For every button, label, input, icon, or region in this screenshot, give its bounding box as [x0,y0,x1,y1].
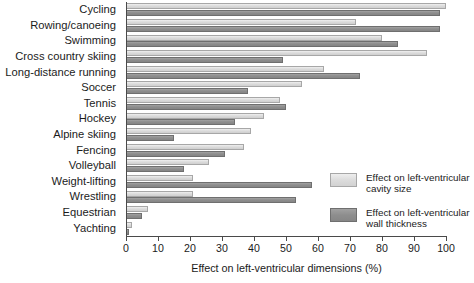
bar-row [126,33,446,49]
x-axis-tick-labels: 0102030405060708090100 [0,242,474,256]
bar-wall-thickness [126,213,142,219]
x-axis-tick-label: 30 [216,242,228,254]
x-axis-tick [254,237,255,241]
bar-wall-thickness [126,26,440,32]
legend-label-line1: Effect on left-ventricular [366,207,470,218]
legend-label-line2: wall thickness [366,218,470,229]
bar-row [126,80,446,96]
x-axis-tick [222,237,223,241]
bar-cavity-size [126,3,446,9]
bar-cavity-size [126,206,148,212]
bar-cavity-size [126,191,193,197]
category-label: Long-distance running [0,64,120,80]
bar-cavity-size [126,144,244,150]
category-label: Volleyball [0,158,120,174]
category-label: Hockey [0,111,120,127]
legend-label-line1: Effect on left-ventricular [366,172,470,183]
x-axis-tick [318,237,319,241]
x-axis-tick-label: 60 [312,242,324,254]
bar-wall-thickness [126,88,248,94]
bar-chart: Cycling Rowing/canoeing Swimming Cross c… [0,0,474,283]
bar-wall-thickness [126,166,184,172]
bar-wall-thickness [126,104,286,110]
bar-wall-thickness [126,197,296,203]
bar-cavity-size [126,35,382,41]
category-label: Cross country skiing [0,49,120,65]
x-axis-title: Effect on left-ventricular dimensions (%… [126,262,447,274]
category-label: Alpine skiing [0,127,120,143]
legend-label-line2: cavity size [366,183,470,194]
x-axis-tick [158,237,159,241]
bar-cavity-size [126,159,209,165]
x-axis-tick [190,237,191,241]
legend-item-cavity-size: Effect on left-ventricular cavity size [330,172,470,195]
category-label: Tennis [0,96,120,112]
y-axis-line [126,2,127,237]
bar-cavity-size [126,128,251,134]
category-label: Yachting [0,220,120,236]
bar-row [126,64,446,80]
bar-wall-thickness [126,182,312,188]
x-axis-tick-label: 100 [437,242,455,254]
legend-label-wall-thickness: Effect on left-ventricular wall thicknes… [366,207,470,230]
bar-row [126,18,446,34]
bar-wall-thickness [126,73,360,79]
x-axis-tick-label: 10 [152,242,164,254]
x-axis-tick-label: 50 [280,242,292,254]
bar-wall-thickness [126,10,440,16]
category-label: Swimming [0,33,120,49]
x-axis-tick-label: 80 [376,242,388,254]
category-axis-labels: Cycling Rowing/canoeing Swimming Cross c… [0,2,120,236]
bar-cavity-size [126,19,356,25]
bar-wall-thickness [126,151,225,157]
x-axis-tick [126,237,127,241]
bar-row [126,111,446,127]
x-axis-tick-label: 70 [344,242,356,254]
category-label: Rowing/canoeing [0,18,120,34]
bar-row [126,2,446,18]
bar-row [126,127,446,143]
legend-item-wall-thickness: Effect on left-ventricular wall thicknes… [330,207,470,230]
category-label: Wrestling [0,189,120,205]
bar-wall-thickness [126,135,174,141]
legend-label-cavity-size: Effect on left-ventricular cavity size [366,172,470,195]
bar-row [126,96,446,112]
x-axis-tick-label: 0 [123,242,129,254]
bar-cavity-size [126,97,280,103]
bar-row [126,49,446,65]
category-label: Fencing [0,142,120,158]
x-axis-tick-label: 40 [248,242,260,254]
category-label: Equestrian [0,205,120,221]
bar-cavity-size [126,113,264,119]
bar-row [126,142,446,158]
bar-cavity-size [126,81,302,87]
bar-cavity-size [126,175,193,181]
x-axis-tick [286,237,287,241]
x-axis-tick-label: 20 [184,242,196,254]
category-label: Weight-lifting [0,174,120,190]
x-axis-tick-label: 90 [408,242,420,254]
bar-wall-thickness [126,41,398,47]
bar-wall-thickness [126,57,283,63]
chart-legend: Effect on left-ventricular cavity size E… [330,172,470,242]
category-label: Soccer [0,80,120,96]
bar-cavity-size [126,66,324,72]
legend-swatch-light [330,173,357,187]
legend-swatch-dark [330,208,357,222]
bar-wall-thickness [126,119,235,125]
bar-cavity-size [126,50,427,56]
category-label: Cycling [0,2,120,18]
